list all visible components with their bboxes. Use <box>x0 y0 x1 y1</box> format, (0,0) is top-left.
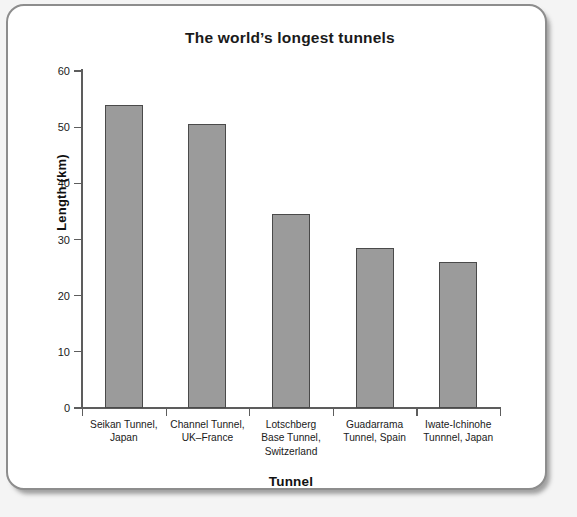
x-tick <box>166 408 167 416</box>
category-label-line: UK–France <box>166 431 250 444</box>
bar <box>439 262 477 408</box>
y-tick <box>74 127 82 128</box>
y-tick <box>74 183 82 184</box>
x-tick <box>249 408 250 416</box>
y-tick <box>74 295 82 296</box>
category-label-line: Tunnel, Spain <box>333 431 417 444</box>
category-label-line: Guadarrama <box>333 418 417 431</box>
bar <box>272 214 310 408</box>
y-tick-label: 60 <box>40 65 70 77</box>
y-tick <box>74 239 82 240</box>
category-label-line: Switzerland <box>249 445 333 458</box>
bar <box>356 248 394 408</box>
category-label: GuadarramaTunnel, Spain <box>333 418 417 445</box>
chart-title: The world’s longest tunnels <box>60 29 520 47</box>
category-label-line: Lotschberg <box>249 418 333 431</box>
bar-chart: The world’s longest tunnels 010203040506… <box>0 0 577 517</box>
category-label-line: Japan <box>82 431 166 444</box>
category-label-line: Tunnnel, Japan <box>416 431 500 444</box>
category-label: Iwate-IchinoheTunnnel, Japan <box>416 418 500 445</box>
x-tick <box>500 408 501 416</box>
y-tick-label: 0 <box>40 402 70 414</box>
category-label: LotschbergBase Tunnel,Switzerland <box>249 418 333 458</box>
category-label-line: Channel Tunnel, <box>166 418 250 431</box>
y-tick <box>74 70 82 71</box>
y-tick <box>74 407 82 408</box>
x-tick <box>82 408 83 416</box>
bar <box>188 124 226 408</box>
y-tick <box>74 351 82 352</box>
x-tick <box>416 408 417 416</box>
bar <box>105 105 143 408</box>
category-label-line: Base Tunnel, <box>249 431 333 444</box>
y-tick-label: 50 <box>40 121 70 133</box>
category-label: Channel Tunnel,UK–France <box>166 418 250 445</box>
category-label-line: Iwate-Ichinohe <box>416 418 500 431</box>
y-axis-title: Length (km) <box>54 138 69 248</box>
y-tick-label: 10 <box>40 346 70 358</box>
x-tick <box>333 408 334 416</box>
category-label: Seikan Tunnel,Japan <box>82 418 166 445</box>
x-axis-title: Tunnel <box>82 474 500 489</box>
category-label-line: Seikan Tunnel, <box>82 418 166 431</box>
y-tick-label: 20 <box>40 290 70 302</box>
